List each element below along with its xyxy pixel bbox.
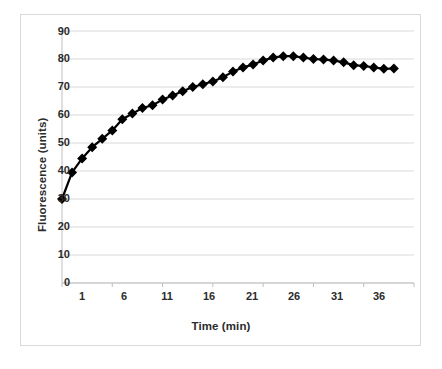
data-point-marker xyxy=(168,90,178,100)
data-point-marker xyxy=(198,79,208,89)
x-tick-label: 26 xyxy=(279,290,309,302)
data-point-marker xyxy=(329,55,339,65)
y-tick-label: 90 xyxy=(44,25,70,37)
data-point-marker xyxy=(268,53,278,63)
data-point-marker xyxy=(228,67,238,77)
data-point-marker xyxy=(148,100,158,110)
data-point-marker xyxy=(137,103,147,113)
y-tick-label: 0 xyxy=(44,276,70,288)
data-point-marker xyxy=(158,95,168,105)
x-axis-title: Time (min) xyxy=(0,320,442,332)
y-axis-title: Fluorescence (units) xyxy=(36,118,48,232)
data-point-marker xyxy=(349,60,359,70)
x-tick-label: 1 xyxy=(67,290,97,302)
x-tick-label: 16 xyxy=(194,290,224,302)
y-tick-label: 70 xyxy=(44,80,70,92)
data-point-marker xyxy=(369,62,379,72)
data-point-marker xyxy=(359,61,369,71)
figure-container: 90 80 70 60 50 40 30 20 10 0 1 6 11 16 2… xyxy=(0,0,442,369)
data-point-marker xyxy=(248,60,258,70)
y-tick-label: 80 xyxy=(44,52,70,64)
data-point-marker xyxy=(258,55,268,65)
data-point-marker xyxy=(298,53,308,63)
data-point-marker xyxy=(178,86,188,96)
data-point-marker xyxy=(318,55,328,65)
data-point-marker xyxy=(389,64,399,74)
data-point-marker xyxy=(188,82,198,92)
y-tick-label: 10 xyxy=(44,248,70,260)
x-tick-label: 6 xyxy=(109,290,139,302)
data-point-marker xyxy=(308,54,318,64)
data-point-marker xyxy=(218,72,228,82)
data-point-marker xyxy=(127,109,137,119)
caption-strip xyxy=(0,356,442,369)
x-tick-label: 36 xyxy=(364,290,394,302)
x-tick-label: 11 xyxy=(152,290,182,302)
x-tick-label: 21 xyxy=(237,290,267,302)
data-point-marker xyxy=(278,51,288,61)
data-point-marker xyxy=(288,51,298,61)
x-tick-label: 31 xyxy=(322,290,352,302)
data-point-marker xyxy=(238,62,248,72)
data-point-marker xyxy=(208,76,218,86)
data-point-marker xyxy=(379,64,389,74)
